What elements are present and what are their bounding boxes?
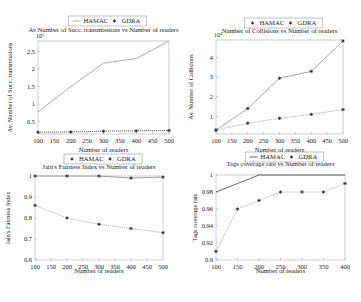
x-tick-label: 400 [126,263,136,270]
x-tick-label: 150 [46,263,56,270]
legend-label-gdra: GDRA [298,19,317,26]
y-tick-label: 0.98 [202,188,213,195]
x-tick-label: 200 [243,137,253,144]
x-tick-label: 250 [259,137,269,144]
x-tick-label: 450 [142,263,152,270]
x-tick-label: 100 [211,137,221,144]
data-point-gdra [102,130,105,133]
legend-label-hamac: HAMAC [84,17,109,24]
chart-panel-3: 1001502002503003504004505000.60.70.80.91… [4,154,168,274]
y-tick-label: 0.9 [205,256,213,263]
y-tick-label: 2 [210,93,213,100]
y-tick-label: 0.9 [24,193,32,200]
x-tick-label: 500 [164,137,174,144]
legend: HAMACGDRA [246,152,324,162]
y-tick-label: 2.5 [27,48,35,55]
legend-marker-gdra [289,21,292,24]
plot-area [216,175,345,260]
data-point-gdra [341,108,344,111]
x-tick-label: 450 [148,137,158,144]
x-tick-label: 500 [338,137,348,144]
legend-label-hamac: HAMAC [79,155,104,162]
plot-area [38,41,169,134]
x-tick-label: 150 [50,137,60,144]
chart-panel-4: 1001502002503003504000.90.920.940.960.98… [191,152,350,274]
data-point-gdra [33,204,36,207]
y-axis-label: Tags coverage rate [191,193,198,241]
x-axis-label: Number of readers [256,267,306,274]
y-axis-label: Av. Number of Collisions [187,54,194,120]
y-axis-label: Av. Number of Succ. transmissions [6,42,13,133]
legend-label-gdra: GDRA [122,17,141,24]
data-point-gdra [310,113,313,116]
y-axis-label: Jain's Fairness Index [4,191,11,245]
x-tick-label: 450 [322,137,332,144]
x-tick-label: 250 [82,137,92,144]
y-tick-label: 0.94 [202,222,214,229]
y-tick-label: 4 [210,54,214,61]
legend-label-hamac: HAMAC [260,19,285,26]
chart-title: Av Number of Succ. transmissions vs Numb… [28,26,179,33]
legend-marker-gdra [113,19,116,22]
y-tick-label: 0.96 [202,205,214,212]
y-tick-label: 3 [210,73,213,80]
y-tick-label: 0.5 [27,118,35,125]
x-tick-label: 150 [227,137,237,144]
data-point-hamac [310,70,313,73]
x-tick-label: 400 [306,137,316,144]
x-tick-label: 400 [131,137,141,144]
x-axis-label: Number of readers [74,267,124,274]
y-tick-label: 2 [32,65,35,72]
x-tick-label: 100 [30,263,40,270]
legend: HAMACGDRA [245,18,323,28]
x-tick-label: 150 [233,263,243,270]
figure: 1001502002503003504004505000.511.522.510… [0,0,361,302]
y-tick-label: 1 [210,113,213,120]
y-tick-label: 1 [32,100,35,107]
x-tick-label: 100 [33,137,43,144]
x-tick-label: 350 [319,263,329,270]
y-tick-label: 1.5 [27,83,35,90]
legend: HAMACGDRA [69,16,147,26]
chart-panel-2: 1001502002503003504004505001234104Number… [187,18,348,153]
x-tick-label: 500 [158,263,168,270]
y-tick-label: 0.92 [202,239,213,246]
x-tick-label: 100 [211,263,221,270]
legend: HAMACGDRA [64,154,142,164]
legend-label-hamac: HAMAC [261,153,286,160]
x-axis-label: Number of readers [79,146,129,153]
data-point-hamac [278,77,281,80]
data-point-gdra [97,223,100,226]
x-tick-label: 300 [99,137,109,144]
y-tick-label: 0.8 [24,214,32,221]
x-tick-label: 200 [66,137,76,144]
x-tick-label: 350 [115,137,125,144]
data-point-hamac [341,39,344,42]
chart-panel-1: 1001502002503003504004505000.511.522.510… [6,16,179,153]
y-tick-label: 1 [210,171,213,178]
chart-canvas: 1001502002503003504004505000.511.522.510… [0,0,361,302]
y-tick-label: 0.7 [24,235,33,242]
legend-label-gdra: GDRA [299,153,318,160]
data-point-gdra [278,117,281,120]
x-tick-label: 400 [340,263,350,270]
x-tick-label: 300 [275,137,285,144]
x-tick-label: 350 [291,137,301,144]
data-point-gdra [69,130,72,133]
y-tick-label: 1 [29,172,32,179]
plot-area [35,176,163,260]
y-tick-label: 0.6 [24,256,33,263]
legend-label-gdra: GDRA [117,155,136,162]
x-tick-label: 200 [62,263,72,270]
